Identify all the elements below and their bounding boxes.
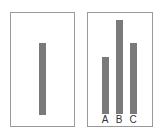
label-a: A	[100, 115, 110, 125]
single-bar	[39, 43, 46, 115]
bar-b	[116, 20, 123, 114]
bar-c	[130, 43, 137, 114]
label-b: B	[114, 115, 124, 125]
label-c: C	[128, 115, 138, 125]
bar-a	[102, 57, 109, 114]
